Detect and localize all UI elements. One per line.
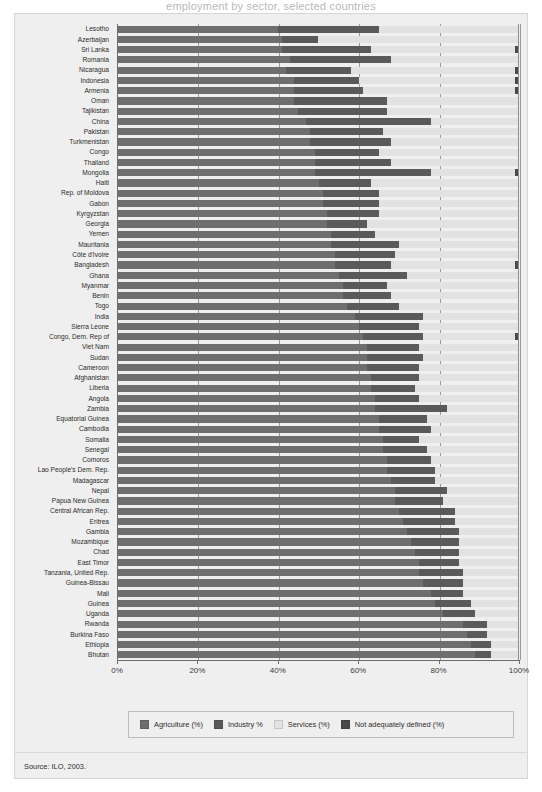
category-label: India xyxy=(0,313,113,320)
x-tick-label: 40% xyxy=(270,666,286,675)
bar-row xyxy=(118,549,519,556)
legend-swatch-icon xyxy=(274,720,283,729)
stacked-bar xyxy=(118,323,519,330)
bar-segment-industry xyxy=(359,323,419,330)
bar-row xyxy=(118,600,519,607)
bar-segment-services xyxy=(318,36,519,43)
stacked-bar xyxy=(118,241,519,248)
x-tick-80 xyxy=(439,660,440,664)
stacked-bar xyxy=(118,26,519,33)
bar-segment-agriculture xyxy=(118,261,335,268)
stacked-bar xyxy=(118,467,519,474)
bar-segment-agriculture xyxy=(118,518,403,525)
category-label: Indonesia xyxy=(0,77,113,84)
stacked-bar xyxy=(118,487,519,494)
bar-row xyxy=(118,518,519,525)
stacked-bar xyxy=(118,128,519,135)
bar-segment-services xyxy=(419,364,519,371)
bar-segment-industry xyxy=(395,487,447,494)
bar-segment-industry xyxy=(435,600,471,607)
category-label: Senegal xyxy=(0,446,113,453)
bar-row xyxy=(118,77,519,84)
bar-segment-services xyxy=(435,477,519,484)
category-label: Guinea xyxy=(0,600,113,607)
bar-segment-services xyxy=(379,149,519,156)
bar-segment-services xyxy=(387,282,519,289)
bar-row xyxy=(118,344,519,351)
bar-segment-services xyxy=(367,220,519,227)
legend-item-not-adequately-defined: Not adequately defined (%) xyxy=(341,720,445,729)
bar-segment-industry xyxy=(343,282,387,289)
category-label: Kyrgyzstan xyxy=(0,210,113,217)
category-label: Yemen xyxy=(0,230,113,237)
bar-segment-industry xyxy=(298,108,386,115)
bar-segment-industry xyxy=(463,621,487,628)
bar-segment-agriculture xyxy=(118,651,475,658)
stacked-bar xyxy=(118,169,519,176)
bar-row xyxy=(118,292,519,299)
bar-segment-services xyxy=(379,26,519,33)
x-tick-label: 60% xyxy=(350,666,366,675)
bar-row xyxy=(118,528,519,535)
category-label: Cambodia xyxy=(0,425,113,432)
category-axis-labels: LesothoAzerbaijanSri LankaRomaniaNicarag… xyxy=(0,24,113,660)
category-label: Azerbaijan xyxy=(0,36,113,43)
category-label: Mauritania xyxy=(0,241,113,248)
bar-segment-agriculture xyxy=(118,497,395,504)
bar-row xyxy=(118,210,519,217)
category-label: Benin xyxy=(0,292,113,299)
bar-segment-agriculture xyxy=(118,303,347,310)
stacked-bar xyxy=(118,272,519,279)
bar-segment-services xyxy=(391,138,519,145)
bar-segment-industry xyxy=(286,67,350,74)
category-label: Ghana xyxy=(0,272,113,279)
legend-item-agriculture: Agriculture (%) xyxy=(140,720,203,729)
bar-segment-services xyxy=(431,426,519,433)
bar-segment-agriculture xyxy=(118,179,319,186)
bar-row xyxy=(118,87,519,94)
bar-segment-agriculture xyxy=(118,313,355,320)
legend-label: Agriculture (%) xyxy=(154,720,203,729)
category-label: Central African Rep. xyxy=(0,507,113,514)
stacked-bar xyxy=(118,559,519,566)
category-label: East Timor xyxy=(0,559,113,566)
bar-row xyxy=(118,651,519,658)
category-label: Armenia xyxy=(0,87,113,94)
category-label: Liberia xyxy=(0,384,113,391)
bar-segment-services xyxy=(379,200,519,207)
bar-segment-industry xyxy=(294,97,386,104)
bar-segment-industry xyxy=(355,313,423,320)
stacked-bar xyxy=(118,333,519,340)
bar-segment-agriculture xyxy=(118,251,335,258)
bar-segment-industry xyxy=(383,446,427,453)
category-label: Sierra Leone xyxy=(0,323,113,330)
category-label: Gambia xyxy=(0,528,113,535)
bar-segment-agriculture xyxy=(118,36,282,43)
bar-segment-services xyxy=(395,251,519,258)
category-label: Eritrea xyxy=(0,518,113,525)
bar-row xyxy=(118,179,519,186)
category-label: Gabon xyxy=(0,200,113,207)
category-label: Bhutan xyxy=(0,651,113,658)
bar-segment-services xyxy=(375,231,519,238)
category-label: Somalia xyxy=(0,436,113,443)
bar-segment-industry xyxy=(443,610,475,617)
stacked-bar xyxy=(118,579,519,586)
bar-segment-industry xyxy=(367,344,419,351)
bar-row xyxy=(118,354,519,361)
bar-segment-agriculture xyxy=(118,210,327,217)
bar-row xyxy=(118,446,519,453)
bar-segment-agriculture xyxy=(118,159,315,166)
bar-row xyxy=(118,149,519,156)
x-axis-line xyxy=(117,660,519,661)
x-tick-40 xyxy=(278,660,279,664)
bar-segment-services xyxy=(419,323,519,330)
bar-segment-industry xyxy=(323,190,379,197)
bar-row xyxy=(118,426,519,433)
stacked-bar xyxy=(118,631,519,638)
bar-segment-industry xyxy=(282,36,318,43)
bar-segment-agriculture xyxy=(118,118,306,125)
bar-segment-services xyxy=(379,210,519,217)
stacked-bar xyxy=(118,405,519,412)
stacked-bar xyxy=(118,179,519,186)
